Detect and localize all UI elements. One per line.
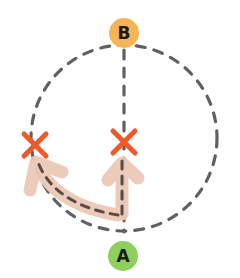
left-blocked-x-icon xyxy=(24,134,46,156)
arrow-to-left xyxy=(30,162,118,215)
diagram-canvas: B A xyxy=(0,0,240,278)
node-a-label: A xyxy=(116,246,130,266)
diagram-svg: B A xyxy=(0,0,240,278)
node-b-label: B xyxy=(118,23,131,43)
node-b: B xyxy=(109,18,139,48)
node-a: A xyxy=(108,241,138,271)
